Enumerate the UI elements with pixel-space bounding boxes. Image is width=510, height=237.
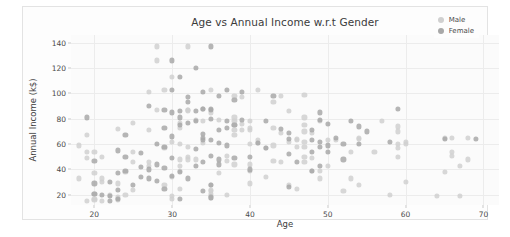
scatter-point (92, 158, 97, 163)
scatter-point (434, 194, 439, 199)
scatter-point (92, 171, 97, 176)
scatter-point (457, 163, 462, 168)
scatter-point (247, 142, 252, 147)
scatter-point (247, 181, 252, 186)
scatter-point (325, 121, 330, 126)
scatter-point (372, 149, 377, 154)
scatter-point (271, 158, 276, 163)
scatter-point (146, 176, 151, 181)
scatter-point (146, 128, 151, 133)
scatter-point (92, 181, 97, 186)
points-layer (71, 35, 499, 205)
scatter-point (185, 144, 190, 149)
legend-label: Male (449, 16, 466, 24)
scatter-point (356, 142, 361, 147)
scatter-point (224, 153, 229, 158)
scatter-point (193, 109, 198, 114)
scatter-point (146, 89, 151, 94)
scatter-point (356, 182, 361, 187)
scatter-point (247, 154, 252, 159)
scatter-point (107, 180, 112, 185)
scatter-point (232, 155, 237, 160)
y-tick-label: 120 (52, 63, 66, 72)
scatter-point (208, 116, 213, 121)
scatter-point (349, 176, 354, 181)
scatter-point (216, 157, 221, 162)
scatter-point (356, 124, 361, 129)
y-tick-label: 100 (52, 89, 66, 98)
scatter-point (286, 185, 291, 190)
scatter-point (271, 100, 276, 105)
scatter-point (240, 128, 245, 133)
scatter-point (170, 139, 175, 144)
scatter-point (170, 155, 175, 160)
scatter-point (162, 186, 167, 191)
scatter-point (92, 191, 97, 196)
scatter-point (146, 167, 151, 172)
scatter-point (193, 119, 198, 124)
scatter-point (216, 93, 221, 98)
scatter-point (465, 157, 470, 162)
scatter-point (294, 186, 299, 191)
scatter-point (138, 150, 143, 155)
legend-item-female[interactable]: Female (438, 27, 474, 35)
x-axis-label: Age (71, 219, 499, 229)
scatter-point (154, 107, 159, 112)
scatter-point (216, 117, 221, 122)
scatter-point (115, 148, 120, 153)
scatter-point (177, 115, 182, 120)
chart-figure: Age vs Annual Income w.r.t Gender Annual… (0, 0, 510, 237)
chart-legend[interactable]: MaleFemale (434, 13, 479, 38)
scatter-point (317, 163, 322, 168)
scatter-point (224, 119, 229, 124)
figure-card: Age vs Annual Income w.r.t Gender Annual… (22, 6, 488, 220)
scatter-point (185, 44, 190, 49)
scatter-point (302, 159, 307, 164)
scatter-point (123, 154, 128, 159)
scatter-point (302, 129, 307, 134)
scatter-point (100, 199, 105, 204)
scatter-point (138, 174, 143, 179)
scatter-point (107, 194, 112, 199)
scatter-point (263, 145, 268, 150)
scatter-point (279, 93, 284, 98)
scatter-point (302, 139, 307, 144)
scatter-point (208, 195, 213, 200)
scatter-point (349, 119, 354, 124)
scatter-point (131, 149, 136, 154)
scatter-point (162, 87, 167, 92)
scatter-point (310, 155, 315, 160)
scatter-point (131, 159, 136, 164)
scatter-point (255, 140, 260, 145)
legend-item-male[interactable]: Male (438, 16, 474, 24)
scatter-point (325, 143, 330, 148)
x-tick-label: 50 (323, 210, 333, 219)
scatter-point (232, 128, 237, 133)
scatter-point (364, 129, 369, 134)
scatter-point (286, 109, 291, 114)
scatter-point (271, 125, 276, 130)
scatter-point (177, 169, 182, 174)
scatter-point (310, 138, 315, 143)
scatter-point (131, 182, 136, 187)
y-axis-label: Annual Income (k$) (28, 78, 38, 161)
x-tick-label: 70 (479, 210, 489, 219)
scatter-point (341, 157, 346, 162)
scatter-point (154, 162, 159, 167)
scatter-point (208, 153, 213, 158)
scatter-point (170, 74, 175, 79)
scatter-point (294, 144, 299, 149)
scatter-point (201, 89, 206, 94)
scatter-point (154, 58, 159, 63)
scatter-point (193, 65, 198, 70)
scatter-point (146, 103, 151, 108)
scatter-point (263, 174, 268, 179)
scatter-point (286, 152, 291, 157)
legend-marker-icon (438, 17, 444, 23)
scatter-point (177, 109, 182, 114)
scatter-point (232, 97, 237, 102)
x-tick-mark (172, 205, 173, 208)
scatter-point (302, 144, 307, 149)
scatter-point (177, 142, 182, 147)
scatter-point (240, 95, 245, 100)
